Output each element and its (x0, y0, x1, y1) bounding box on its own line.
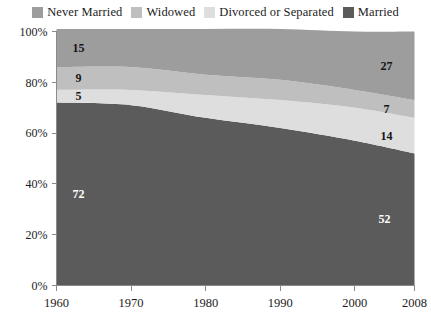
data-label-start-widowed: 9 (76, 71, 82, 85)
legend-swatch-married (343, 7, 354, 18)
legend-label-divorced-or-separated: Divorced or Separated (219, 6, 334, 19)
legend-item-divorced-or-separated[interactable]: Divorced or Separated (204, 6, 334, 19)
legend-label-widowed: Widowed (146, 6, 195, 19)
y-tick-label: 60% (26, 126, 48, 140)
plot-svg: 0%20%40%60%80%100% 196019701980199020002… (0, 24, 431, 320)
x-tick-label: 1990 (268, 296, 293, 310)
x-tick-label: 1960 (44, 296, 69, 310)
plot-area-wrapper: 0%20%40%60%80%100% 196019701980199020002… (0, 24, 431, 320)
data-label-end-married: 52 (379, 212, 391, 226)
y-tick-label: 0% (32, 279, 48, 293)
data-label-start-married: 72 (73, 187, 85, 201)
data-label-start-divorced-or-separated: 5 (76, 89, 82, 103)
stacked-area-chart: Never Married Widowed Divorced or Separa… (0, 0, 431, 320)
y-tick-label: 100% (20, 25, 48, 39)
data-label-end-widowed: 7 (384, 102, 390, 116)
y-tick-label: 40% (26, 177, 48, 191)
data-label-end-never-married: 27 (381, 59, 393, 73)
chart-legend: Never Married Widowed Divorced or Separa… (0, 0, 431, 24)
area-series-group (57, 29, 415, 286)
legend-swatch-never-married (32, 7, 43, 18)
y-axis-ticks: 0%20%40%60%80%100% (20, 25, 57, 293)
y-tick-label: 80% (26, 76, 48, 90)
legend-swatch-widowed (131, 7, 142, 18)
x-tick-label: 2000 (342, 296, 367, 310)
legend-item-widowed[interactable]: Widowed (131, 6, 195, 19)
legend-swatch-divorced-or-separated (204, 7, 215, 18)
x-tick-label: 2008 (402, 296, 427, 310)
y-tick-label: 20% (26, 228, 48, 242)
legend-label-married: Married (358, 6, 399, 19)
x-tick-label: 1970 (119, 296, 144, 310)
legend-label-never-married: Never Married (47, 6, 122, 19)
data-label-end-divorced-or-separated: 14 (381, 129, 393, 143)
legend-item-never-married[interactable]: Never Married (32, 6, 122, 19)
x-axis-ticks: 196019701980199020002008 (44, 286, 427, 310)
x-tick-label: 1980 (193, 296, 218, 310)
data-label-start-never-married: 15 (73, 41, 85, 55)
legend-item-married[interactable]: Married (343, 6, 399, 19)
